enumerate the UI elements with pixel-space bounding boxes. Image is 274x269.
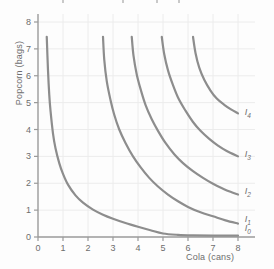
y-tick-label: 5 [19,98,31,108]
x-tick-label: 8 [235,243,240,253]
y-tick-label: 7 [19,44,31,54]
indifference-curve-I4 [193,37,238,114]
y-tick-label: 4 [19,125,31,135]
curve-label-subscript: 4 [247,112,251,119]
y-tick-label: 0 [19,232,31,242]
indifference-curve-I0 [47,37,238,236]
x-tick-label: 4 [135,243,140,253]
x-tick-label: 7 [210,243,215,253]
y-tick-label: 6 [19,71,31,81]
curve-label-subscript: 1 [247,219,251,226]
indifference-curve-I3 [162,37,238,157]
curve-label-I1: I1 [245,214,251,226]
plot-area [0,0,274,269]
y-tick-label: 2 [19,178,31,188]
x-axis-label: Cola (cans) [186,252,234,262]
y-tick-label: 3 [19,151,31,161]
curve-label-I2: I2 [245,186,251,198]
x-tick-label: 5 [160,243,165,253]
x-tick-label: 0 [35,243,40,253]
y-tick-label: 1 [19,205,31,215]
x-tick-label: 1 [60,243,65,253]
y-tick-label: 8 [19,17,31,27]
curve-label-subscript: 0 [247,228,251,235]
x-tick-label: 2 [85,243,90,253]
indifference-curve-I1 [103,37,238,224]
curve-label-I3: I3 [245,149,251,161]
x-tick-label: 6 [185,243,190,253]
indifference-curve-I2 [132,37,238,195]
curve-label-subscript: 3 [247,154,251,161]
x-tick-label: 3 [110,243,115,253]
indifference-curve-chart: Popcorn (bags) Cola (cans) 0123456780123… [0,0,274,269]
curve-label-I4: I4 [245,107,251,119]
curve-label-subscript: 2 [247,191,251,198]
